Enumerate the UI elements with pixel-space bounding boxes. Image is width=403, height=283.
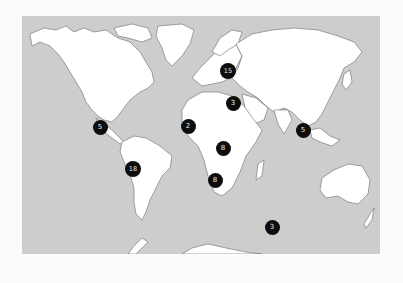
marker-east-africa[interactable]: 8 (216, 141, 231, 156)
southeast-asia-islands (310, 128, 340, 146)
antarctica (182, 244, 262, 254)
marker-southern-indian-ocean[interactable]: 3 (265, 220, 280, 235)
world-map-land (22, 16, 380, 254)
marker-southeast-asia[interactable]: 5 (296, 123, 311, 138)
japan (342, 70, 352, 90)
marker-middle-east[interactable]: 3 (226, 96, 241, 111)
marker-eastern-europe[interactable]: 15 (220, 63, 236, 79)
south-america (120, 136, 172, 220)
antarctic-peninsula (128, 238, 148, 254)
new-zealand (364, 208, 374, 228)
madagascar (256, 160, 264, 180)
india (274, 110, 292, 134)
greenland (156, 24, 194, 66)
australia (320, 164, 370, 204)
world-map: 5 18 2 8 8 15 3 5 3 (22, 16, 380, 254)
marker-southern-africa[interactable]: 8 (208, 173, 223, 188)
marker-central-america[interactable]: 5 (93, 120, 108, 135)
marker-south-america[interactable]: 18 (125, 161, 141, 177)
marker-west-africa[interactable]: 2 (181, 119, 196, 134)
